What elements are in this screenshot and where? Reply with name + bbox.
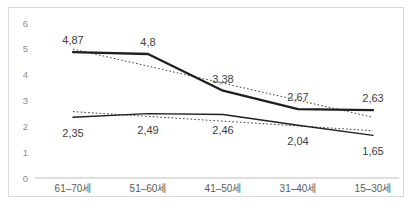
lower-series-data-label: 1,65: [362, 145, 383, 157]
x-category-label: 51–60세: [130, 183, 167, 194]
x-category-label: 31–40세: [280, 183, 317, 194]
line-chart: 012345661–70세51–60세41–50세31–40세15–30세4,8…: [9, 8, 403, 196]
upper-series-data-label: 3,38: [212, 73, 233, 85]
y-tick-label: 4: [23, 69, 28, 80]
y-tick-label: 2: [23, 121, 28, 132]
lower-series-data-label: 2,46: [212, 124, 233, 136]
y-tick-label: 1: [23, 147, 28, 158]
upper-series-data-label: 2,67: [287, 91, 308, 103]
upper-series-data-label: 4,87: [62, 34, 83, 46]
upper-series-data-label: 4,8: [140, 36, 155, 48]
x-category-label: 61–70세: [55, 183, 92, 194]
y-tick-label: 3: [23, 95, 28, 106]
y-tick-label: 5: [23, 43, 28, 54]
x-category-label: 41–50세: [205, 183, 242, 194]
lower-series-data-label: 2,35: [62, 127, 83, 139]
x-category-label: 15–30세: [355, 183, 392, 194]
y-tick-label: 6: [23, 18, 28, 29]
chart-frame: 012345661–70세51–60세41–50세31–40세15–30세4,8…: [8, 7, 404, 197]
lower-series-data-label: 2,49: [137, 124, 158, 136]
upper-series-data-label: 2,63: [362, 92, 383, 104]
lower-series-data-label: 2,04: [287, 135, 308, 147]
y-tick-label: 0: [23, 173, 28, 184]
